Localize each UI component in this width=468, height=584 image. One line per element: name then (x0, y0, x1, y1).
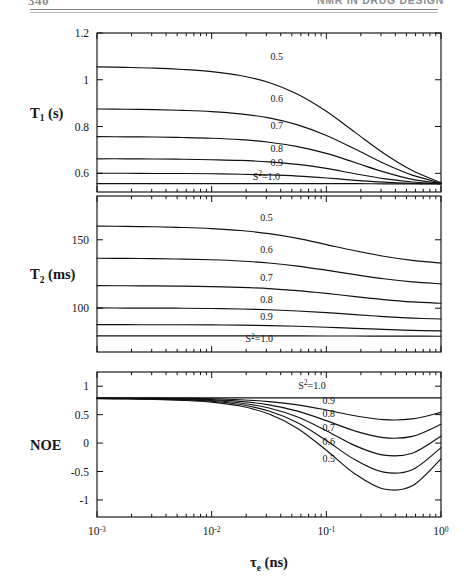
panel-bottom-NOE: 10.50-0.5-1 S2=1.00.90.80.70.60.5 NOE (30, 372, 441, 517)
svg-text:0: 0 (83, 437, 89, 449)
svg-text:1: 1 (83, 380, 89, 392)
x-tick-label: 100 (433, 525, 449, 537)
curve-label-0.5: 0.5 (271, 51, 284, 62)
curve-label-0.7: 0.7 (323, 422, 336, 433)
curve-label-0.9: 0.9 (260, 311, 273, 322)
curve-label-0.6: 0.6 (323, 436, 336, 447)
svg-text:1.2: 1.2 (75, 27, 90, 39)
y-axis-title-T1: T1 (s) (30, 105, 64, 124)
curve-0.7 (97, 398, 441, 456)
x-tick-label: 10-3 (88, 525, 106, 537)
svg-text:100: 100 (72, 302, 90, 314)
x-tick-label: 10-1 (317, 525, 335, 537)
svg-text:150: 150 (72, 234, 90, 246)
curve-label-0.9: 0.9 (323, 395, 336, 406)
axis-ticks-NOE (97, 372, 441, 517)
svg-text:0.5: 0.5 (75, 409, 90, 421)
curve-label-0.9: 0.9 (271, 157, 284, 168)
y-tick-labels-NOE: 10.50-0.5-1 (71, 380, 89, 506)
y-tick-labels-T1: 1.210.80.6 (75, 27, 90, 179)
panel-middle-T2: 150100 0.50.60.70.80.9S2=1.0 T2 (ms) (30, 196, 441, 352)
svg-text:0.6: 0.6 (75, 167, 90, 179)
curves-NOE (97, 398, 441, 490)
panel-top-T1: 1.210.80.6 0.50.60.70.80.9S2=1.0 T1 (s) (30, 27, 441, 192)
curve-label-0.7: 0.7 (260, 272, 273, 283)
curve-label-0.6: 0.6 (271, 93, 284, 104)
y-axis-title-NOE: NOE (30, 437, 61, 453)
curve-label-0.5: 0.5 (260, 212, 273, 223)
curve-label-0.5: 0.5 (323, 453, 336, 464)
curve-label-S2=1.0: S2=1.0 (253, 169, 281, 181)
curve-labels-NOE: S2=1.00.90.80.70.60.5 (298, 378, 335, 463)
curve-0.5 (97, 399, 441, 491)
svg-text:-1: -1 (79, 494, 89, 506)
curve-label-0.6: 0.6 (260, 244, 273, 255)
curve-label-0.8: 0.8 (323, 408, 336, 419)
curve-label-0.8: 0.8 (271, 143, 284, 154)
figure-three-panel-relaxation: 1.210.80.6 0.50.60.70.80.9S2=1.0 T1 (s) … (0, 0, 468, 584)
x-tick-label: 10-2 (203, 525, 221, 537)
curve-0.9 (97, 398, 441, 420)
axis-ticks-T1 (97, 33, 441, 192)
plot-frame-NOE (97, 372, 441, 517)
x-axis-title: τe (ns) (250, 554, 288, 573)
y-axis-title-T2: T2 (ms) (30, 266, 76, 285)
curve-label-S2=1.0: S2=1.0 (246, 332, 274, 344)
svg-text:0.8: 0.8 (75, 121, 90, 133)
curve-label-0.7: 0.7 (271, 120, 284, 131)
curve-label-0.8: 0.8 (260, 294, 273, 305)
x-tick-labels: 10-310-210-1100 (88, 525, 449, 537)
curve-0.8 (97, 398, 441, 438)
svg-text:1: 1 (83, 74, 89, 86)
curve-label-S2=1.0: S2=1.0 (298, 378, 326, 390)
plot-frame-T1 (97, 33, 441, 192)
curves-T1 (97, 67, 441, 184)
curve-0.9 (97, 325, 441, 331)
curve-0.6 (97, 399, 441, 474)
figure-svg: 1.210.80.6 0.50.60.70.80.9S2=1.0 T1 (s) … (0, 0, 468, 584)
svg-text:-0.5: -0.5 (71, 466, 89, 478)
